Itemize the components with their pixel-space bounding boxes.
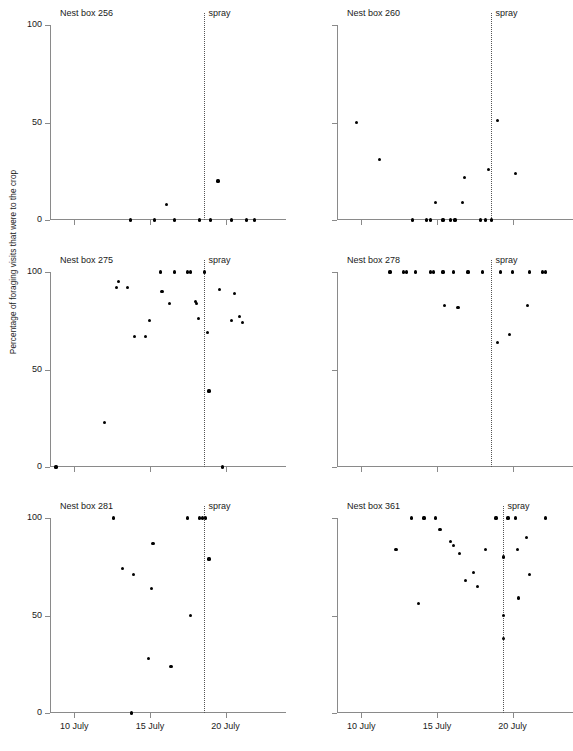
spray-line <box>503 506 504 713</box>
data-point <box>479 218 482 221</box>
data-point <box>425 218 428 221</box>
spray-line <box>204 13 205 220</box>
x-tick-20 <box>513 220 514 225</box>
data-point <box>502 637 505 640</box>
data-point <box>464 579 467 582</box>
data-point <box>173 270 176 273</box>
data-point <box>528 573 531 576</box>
data-point <box>173 218 176 221</box>
data-point <box>230 218 233 221</box>
x-tick-10 <box>74 220 75 225</box>
panel-nest-box-361: Nest box 361spray10 July15 July20 July <box>305 501 573 741</box>
data-point <box>165 203 168 206</box>
data-point <box>189 614 192 617</box>
y-tick-label: 50 <box>32 117 42 127</box>
y-axis-line <box>50 25 51 220</box>
data-point <box>506 516 509 519</box>
data-point <box>438 528 441 531</box>
data-point <box>452 270 455 273</box>
data-point <box>456 306 459 309</box>
x-tick-15 <box>150 713 151 718</box>
data-point <box>238 315 241 318</box>
data-point <box>204 516 207 519</box>
data-point <box>144 335 147 338</box>
data-point <box>443 304 446 307</box>
x-tick-15 <box>150 467 151 472</box>
data-point <box>514 172 517 175</box>
data-point <box>405 270 408 273</box>
data-point <box>528 270 531 273</box>
y-tick-0: 0 <box>45 220 50 221</box>
data-point <box>148 319 151 322</box>
plot-area <box>337 25 561 220</box>
data-point <box>207 389 210 392</box>
data-point <box>168 302 171 305</box>
y-tick-0 <box>332 220 337 221</box>
y-tick-label: 50 <box>32 610 42 620</box>
data-point <box>245 218 248 221</box>
data-point <box>502 555 505 558</box>
data-point <box>449 218 452 221</box>
x-tick-15 <box>437 713 438 718</box>
plot-area: 050100 <box>50 25 274 220</box>
spray-line <box>204 260 205 467</box>
spray-line <box>491 13 492 220</box>
data-point <box>441 218 444 221</box>
spray-label: spray <box>507 501 529 511</box>
data-point <box>132 573 135 576</box>
y-tick-0: 0 <box>45 713 50 714</box>
y-tick-100: 100 <box>45 272 50 273</box>
panel-nest-box-256: Nest box 256spray050100 <box>18 8 286 248</box>
data-point <box>198 218 201 221</box>
data-point <box>207 557 210 560</box>
data-point <box>467 270 470 273</box>
data-point <box>129 218 132 221</box>
data-point <box>150 587 153 590</box>
spray-line <box>491 260 492 467</box>
x-tick-20 <box>226 713 227 718</box>
y-tick-50: 50 <box>45 123 50 124</box>
data-point <box>133 335 136 338</box>
data-point <box>434 516 437 519</box>
x-tick-20 <box>513 467 514 472</box>
data-point <box>484 548 487 551</box>
data-point <box>186 516 189 519</box>
data-point <box>514 516 517 519</box>
spray-line <box>204 506 205 713</box>
data-point <box>169 665 172 668</box>
data-point <box>525 536 528 539</box>
data-point <box>117 280 120 283</box>
y-tick-50: 50 <box>45 370 50 371</box>
x-tick-label: 20 July <box>211 721 240 731</box>
data-point <box>423 516 426 519</box>
x-tick-10 <box>74 713 75 718</box>
data-point <box>496 119 499 122</box>
data-point <box>153 218 156 221</box>
spray-label: spray <box>208 501 230 511</box>
data-point <box>126 286 129 289</box>
plot-area: 05010010 July15 July20 July <box>50 518 274 713</box>
y-tick-label: 0 <box>37 707 42 717</box>
data-point <box>544 516 547 519</box>
y-tick-label: 100 <box>27 266 42 276</box>
data-point <box>441 270 444 273</box>
data-point <box>355 121 358 124</box>
data-point <box>151 542 154 545</box>
spray-label: spray <box>495 8 517 18</box>
y-tick-50 <box>332 616 337 617</box>
data-point <box>115 286 118 289</box>
panel-nest-box-281: Nest box 281spray05010010 July15 July20 … <box>18 501 286 741</box>
data-point <box>417 602 420 605</box>
panel-title: Nest box 256 <box>60 8 113 18</box>
data-point <box>449 540 452 543</box>
data-point <box>496 341 499 344</box>
data-point <box>481 270 484 273</box>
y-tick-0 <box>332 713 337 714</box>
y-tick-100: 100 <box>45 25 50 26</box>
data-point <box>458 552 461 555</box>
data-point <box>197 317 200 320</box>
panel-title: Nest box 281 <box>60 501 113 511</box>
x-tick-15 <box>437 220 438 225</box>
data-point <box>253 218 256 221</box>
y-tick-label: 100 <box>27 19 42 29</box>
